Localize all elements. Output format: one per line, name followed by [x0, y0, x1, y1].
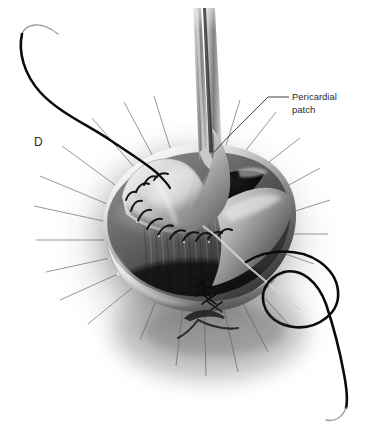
illustration-canvas: Pericardial patch D	[0, 0, 381, 435]
panel-letter: D	[34, 135, 43, 149]
surgical-illustration-figure: Pericardial patch D	[0, 0, 381, 435]
pericardial-patch-label-line1: Pericardial	[292, 91, 337, 102]
pericardial-patch-label-line2: patch	[292, 104, 315, 115]
ground-shadow	[144, 304, 284, 356]
